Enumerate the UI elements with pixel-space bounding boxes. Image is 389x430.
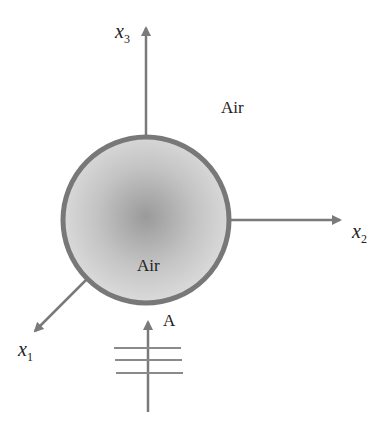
x1-axis (35, 280, 86, 331)
x1-axis-label: x1 (18, 338, 33, 365)
sphere (63, 137, 229, 303)
x3-axis-label: x3 (115, 20, 130, 47)
inside-medium-label: Air (137, 256, 160, 276)
diagram-canvas: x3 x2 x1 Air Air A (0, 0, 389, 430)
diagram-graphics (0, 0, 389, 430)
x2-axis-label: x2 (352, 220, 367, 247)
outside-medium-label: Air (221, 98, 244, 118)
incident-wave-label: A (163, 311, 175, 331)
